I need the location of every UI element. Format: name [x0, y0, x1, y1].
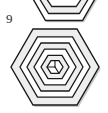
- figure-index-label: 9: [6, 11, 20, 26]
- concentric-hexagon-maze: [11, 29, 101, 107]
- figure-panel: 9: [0, 0, 108, 113]
- clipped-hexagon-above: [27, 0, 103, 22]
